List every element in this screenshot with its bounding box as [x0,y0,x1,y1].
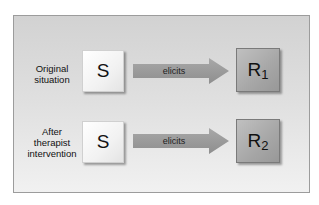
row-label-line: Original [22,63,82,74]
row-label-original-situation: Original situation [22,63,82,85]
response-box-2: R2 [236,119,280,163]
diagram-panel: Original situation S elicits R1 After th… [13,15,310,193]
elicits-arrow-2: elicits [133,128,229,154]
response-label: R2 [248,130,269,153]
response-letter: R [248,130,262,151]
response-subscript: 2 [261,138,268,153]
stimulus-label: S [97,131,110,153]
stimulus-box-2: S [82,121,124,163]
arrow-label: elicits [133,128,215,154]
response-box-1: R1 [236,48,280,92]
response-label: R1 [248,59,269,82]
row-label-after-intervention: After therapist intervention [18,126,86,159]
row-label-line: intervention [18,148,86,159]
elicits-arrow-1: elicits [133,58,229,84]
response-letter: R [248,59,262,80]
stimulus-label: S [97,60,110,82]
row-label-line: situation [22,74,82,85]
arrow-label: elicits [133,58,215,84]
row-label-line: After [18,126,86,137]
row-label-line: therapist [18,137,86,148]
response-subscript: 1 [261,67,268,82]
stimulus-box-1: S [82,50,124,92]
